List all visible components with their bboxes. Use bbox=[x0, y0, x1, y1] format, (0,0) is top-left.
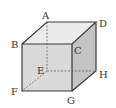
vertex-label-b: B bbox=[11, 39, 18, 50]
cube-diagram: A B C D E F G H bbox=[0, 0, 116, 108]
vertex-label-d: D bbox=[99, 18, 107, 29]
vertex-label-a: A bbox=[41, 10, 50, 21]
vertex-label-e: E bbox=[37, 65, 44, 76]
vertex-label-g: G bbox=[67, 95, 75, 106]
vertex-label-h: H bbox=[99, 69, 108, 80]
vertex-label-f: F bbox=[11, 86, 18, 97]
vertex-label-c: C bbox=[74, 45, 82, 56]
